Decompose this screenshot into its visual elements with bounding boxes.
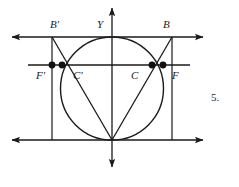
geometry-diagram (0, 0, 239, 187)
label-b-prime: B' (50, 19, 59, 30)
label-c-prime: C' (73, 70, 83, 81)
point-F (160, 62, 167, 69)
label-b: B (163, 19, 170, 30)
label-f: F (172, 70, 179, 81)
problem-number: 5. (211, 92, 219, 103)
label-c: C (131, 70, 138, 81)
label-f-prime: F' (36, 70, 45, 81)
figure-page: B' Y B F' C' C F 5. (0, 0, 239, 187)
point-F-prime (49, 62, 56, 69)
point-C (149, 62, 156, 69)
label-y: Y (97, 19, 103, 30)
point-C-prime (59, 62, 66, 69)
